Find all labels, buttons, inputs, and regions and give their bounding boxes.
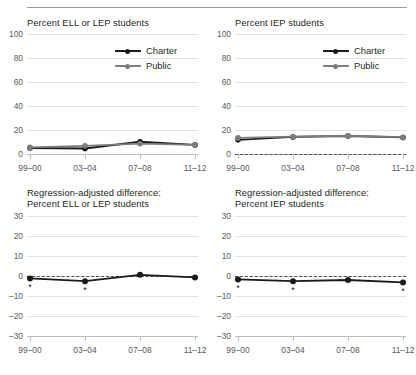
legend-item-public: Public <box>115 60 177 72</box>
data-point-marker <box>290 134 296 140</box>
data-point-marker <box>235 276 241 282</box>
x-axis-tick-label: 11–12 <box>380 345 416 355</box>
axis-baseline <box>27 154 198 155</box>
x-axis-tick-mark <box>195 336 196 341</box>
x-axis-tick-mark <box>140 336 141 341</box>
significance-asterisk: * <box>83 286 87 295</box>
legend-dot-icon <box>125 64 131 70</box>
x-axis-tick-mark <box>403 154 404 159</box>
panel-regadj-iep: Regression-adjusted difference:Percent I… <box>208 188 416 375</box>
data-point-marker <box>400 279 406 285</box>
panel-title-line1: Regression-adjusted difference: <box>235 188 369 198</box>
panel-percent-ell-lep: Percent ELL or LEP students 020406080100… <box>0 18 208 188</box>
data-point-marker <box>82 143 88 149</box>
axis-baseline <box>27 336 198 337</box>
x-axis-tick-mark <box>30 154 31 159</box>
x-axis-tick-mark <box>195 154 196 159</box>
x-axis-tick-mark <box>140 154 141 159</box>
legend-dot-icon <box>333 49 339 55</box>
data-point-marker <box>137 272 143 278</box>
significance-asterisk: * <box>28 283 32 292</box>
axis-baseline <box>235 336 406 337</box>
x-axis-tick-label: 11–12 <box>380 163 416 173</box>
series-line-charter <box>238 279 403 282</box>
y-axis-tick-label: 20 <box>210 231 231 241</box>
y-axis-tick-label: 80 <box>2 53 23 63</box>
y-axis-tick-label: 0 <box>210 149 231 159</box>
x-axis-tick-mark <box>293 336 294 341</box>
panel-title-line1: Regression-adjusted difference: <box>27 188 161 198</box>
top-divider-rule <box>27 7 407 8</box>
x-axis-tick-label: 99–00 <box>215 345 261 355</box>
legend-ell-lep: Charter Public <box>115 45 177 75</box>
data-point-marker <box>290 278 296 284</box>
plot-area-regadj-iep: –30–20–10010203099–0003–0407–0811–12*** <box>235 216 406 336</box>
y-axis-tick-label: –20 <box>2 311 23 321</box>
x-axis-tick-label: 99–00 <box>7 163 53 173</box>
data-point-marker <box>27 275 33 281</box>
x-axis-tick-mark <box>348 336 349 341</box>
legend-swatch-charter <box>115 45 141 57</box>
y-axis-tick-label: –30 <box>210 331 231 341</box>
x-axis-tick-mark <box>30 336 31 341</box>
x-axis-tick-label: 03–04 <box>270 163 316 173</box>
x-axis-tick-label: 99–00 <box>7 345 53 355</box>
y-axis-tick-label: –20 <box>210 311 231 321</box>
y-axis-tick-label: 60 <box>2 77 23 87</box>
significance-asterisk: * <box>236 284 240 293</box>
legend-swatch-public <box>323 60 349 72</box>
series-line-charter <box>30 275 195 281</box>
y-axis-tick-label: 40 <box>210 101 231 111</box>
data-point-marker <box>192 142 198 148</box>
panel-title-regadj-ell-lep: Regression-adjusted difference:Percent E… <box>27 188 161 211</box>
x-axis-tick-mark <box>293 154 294 159</box>
x-axis-tick-label: 03–04 <box>270 345 316 355</box>
y-axis-tick-label: 40 <box>2 101 23 111</box>
legend-label-public: Public <box>146 61 171 71</box>
x-axis-tick-label: 03–04 <box>62 163 108 173</box>
y-axis-tick-label: 60 <box>210 77 231 87</box>
panel-title-line2: Percent ELL or LEP students <box>27 199 149 209</box>
panel-title-regadj-iep: Regression-adjusted difference:Percent I… <box>235 188 369 211</box>
data-point-marker <box>400 134 406 140</box>
data-point-marker <box>345 277 351 283</box>
data-point-marker <box>27 144 33 150</box>
y-axis-tick-label: 100 <box>210 29 231 39</box>
legend-item-charter: Charter <box>115 45 177 57</box>
legend-swatch-charter <box>323 45 349 57</box>
x-axis-tick-mark <box>85 336 86 341</box>
x-axis-tick-label: 03–04 <box>62 345 108 355</box>
x-axis-tick-mark <box>85 154 86 159</box>
panel-title-iep: Percent IEP students <box>235 18 324 29</box>
legend-item-charter: Charter <box>323 45 385 57</box>
significance-asterisk: * <box>401 287 405 296</box>
plot-area-regadj-ell-lep: –30–20–10010203099–0003–0407–0811–12** <box>27 216 198 336</box>
series-layer <box>27 216 198 336</box>
x-axis-tick-label: 07–08 <box>325 345 371 355</box>
x-axis-tick-label: 07–08 <box>117 163 163 173</box>
x-axis-tick-mark <box>238 336 239 341</box>
significance-asterisk: * <box>291 286 295 295</box>
legend-dot-icon <box>333 64 339 70</box>
x-axis-tick-label: 99–00 <box>215 163 261 173</box>
zero-reference-line <box>235 154 406 155</box>
data-point-marker <box>192 274 198 280</box>
figure-small-multiples: Percent ELL or LEP students 020406080100… <box>0 0 416 375</box>
y-axis-tick-label: 100 <box>2 29 23 39</box>
legend-dot-icon <box>125 49 131 55</box>
x-axis-tick-mark <box>348 154 349 159</box>
panel-title-ell-lep: Percent ELL or LEP students <box>27 18 149 29</box>
legend-item-public: Public <box>323 60 385 72</box>
x-axis-tick-mark <box>238 154 239 159</box>
panel-percent-iep: Percent IEP students 02040608010099–0003… <box>208 18 416 188</box>
y-axis-tick-label: 0 <box>2 271 23 281</box>
y-axis-tick-label: –30 <box>2 331 23 341</box>
y-axis-tick-label: 20 <box>2 231 23 241</box>
y-axis-tick-label: 30 <box>210 211 231 221</box>
panel-regadj-ell-lep: Regression-adjusted difference:Percent E… <box>0 188 208 375</box>
data-point-marker <box>345 133 351 139</box>
legend-label-charter: Charter <box>354 46 385 56</box>
y-axis-tick-label: 10 <box>2 251 23 261</box>
data-point-marker <box>235 135 241 141</box>
x-axis-tick-label: 07–08 <box>325 163 371 173</box>
